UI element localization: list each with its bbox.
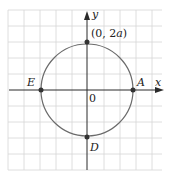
point-d-label: D bbox=[89, 141, 99, 154]
label-part: (0, 2 bbox=[91, 27, 116, 40]
point-d bbox=[85, 135, 90, 140]
point-top-label: (0, 2a) bbox=[91, 27, 127, 40]
point-e bbox=[39, 88, 44, 93]
circle-diagram: y x 0 (0, 2a) A E D bbox=[0, 0, 169, 180]
point-a bbox=[131, 88, 136, 93]
point-top bbox=[85, 40, 90, 45]
label-part-close: ) bbox=[123, 27, 127, 40]
y-axis-label: y bbox=[91, 8, 99, 21]
point-e-label: E bbox=[26, 76, 35, 89]
y-axis-arrow-icon bbox=[84, 11, 90, 20]
point-a-label: A bbox=[136, 76, 145, 89]
origin-label: 0 bbox=[89, 92, 96, 105]
x-axis-label: x bbox=[155, 76, 162, 89]
